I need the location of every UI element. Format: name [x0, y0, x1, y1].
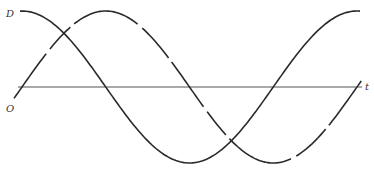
waveform-diagram: D O t	[0, 0, 374, 170]
label-t: t	[365, 81, 370, 92]
label-d: D	[5, 8, 14, 19]
label-o: O	[6, 103, 14, 114]
